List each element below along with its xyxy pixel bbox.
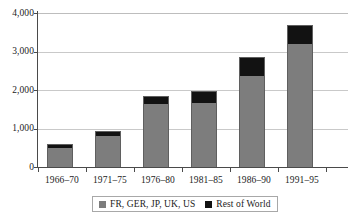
x-tick-mark-1	[86, 167, 87, 172]
bar-1986-90	[240, 58, 264, 167]
x-tick-label-1981-85: 1981–85	[182, 175, 230, 186]
x-tick-mark-4	[230, 167, 231, 172]
x-tick-label-1986-90: 1986–90	[230, 175, 278, 186]
x-axis-line	[37, 167, 348, 168]
bar-segment-base-1966-70	[48, 148, 72, 167]
bar-1991-95	[288, 26, 312, 167]
legend-item-rest-of-world: Rest of World	[205, 199, 270, 209]
legend-label-fr-ger-jp-uk-us: FR, GER, JP, UK, US	[110, 199, 195, 209]
y-axis-labels: 4,000 3,000 2,000 1,000 0	[0, 0, 34, 222]
bar-1976-80	[144, 97, 168, 167]
bar-segment-base-1976-80	[144, 104, 168, 167]
y-tick-label-2000: 2,000	[0, 86, 34, 96]
y-tick-label-3000: 3,000	[0, 47, 34, 57]
bar-segment-rest-of-world-1976-80	[144, 97, 168, 104]
bar-segment-rest-of-world-1966-70	[48, 145, 72, 148]
x-tick-mark-0	[38, 167, 39, 172]
bar-segment-base-1971-75	[96, 136, 120, 167]
bar-segment-base-1981-85	[192, 103, 216, 167]
plot-area	[38, 13, 348, 167]
x-tick-mark-5	[278, 167, 279, 172]
x-tick-mark-6	[326, 167, 327, 172]
bar-segment-base-1986-90	[240, 76, 264, 167]
x-tick-mark-3	[182, 167, 183, 172]
y-tick-label-0: 0	[0, 163, 34, 173]
bar-segment-rest-of-world-1981-85	[192, 92, 216, 103]
stacked-bar-chart: 4,000 3,000 2,000 1,000 0	[0, 0, 352, 222]
y-tick-label-1000: 1,000	[0, 124, 34, 134]
bar-segment-rest-of-world-1971-75	[96, 132, 120, 136]
x-tick-label-1966-70: 1966–70	[38, 175, 86, 186]
gridline-4000	[38, 13, 348, 14]
bar-1966-70	[48, 145, 72, 167]
bar-1981-85	[192, 92, 216, 167]
x-tick-label-1991-95: 1991–95	[278, 175, 326, 186]
bar-segment-rest-of-world-1991-95	[288, 26, 312, 44]
legend-item-fr-ger-jp-uk-us: FR, GER, JP, UK, US	[99, 199, 195, 209]
x-tick-mark-2	[134, 167, 135, 172]
bar-segment-base-1991-95	[288, 44, 312, 167]
x-tick-label-1971-75: 1971–75	[86, 175, 134, 186]
bar-1971-75	[96, 132, 120, 167]
black-square-swatch-icon	[205, 201, 212, 208]
bar-segment-rest-of-world-1986-90	[240, 58, 264, 76]
legend-label-rest-of-world: Rest of World	[216, 199, 270, 209]
y-tick-label-4000: 4,000	[0, 9, 34, 19]
y-axis-line	[37, 11, 38, 168]
chart-legend: FR, GER, JP, UK, US Rest of World	[92, 196, 278, 212]
x-tick-label-1976-80: 1976–80	[134, 175, 182, 186]
gray-square-swatch-icon	[99, 201, 106, 208]
